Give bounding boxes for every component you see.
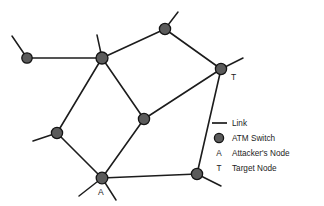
- link-n2-n3: [102, 29, 165, 58]
- node-label-A: A: [98, 187, 104, 197]
- legend-atm-switch-symbol: [214, 133, 223, 142]
- stubs-group: [12, 12, 243, 200]
- atm-switch-hub-node: [96, 52, 108, 64]
- node-label-T: T: [231, 72, 236, 82]
- atm-switch-left-node: [22, 53, 32, 63]
- legend-symbol-A: A: [216, 149, 222, 158]
- link-n5-n4: [144, 69, 221, 119]
- atm-switch-target-node: [215, 63, 226, 74]
- link-n2-n5: [102, 58, 144, 119]
- link-n2-n6: [57, 58, 102, 133]
- legend-label-1: ATM Switch: [232, 134, 276, 143]
- atm-switch-left-mid-node: [51, 127, 62, 138]
- atm-switch-attacker-node: [96, 172, 108, 184]
- atm-switch-center-node: [138, 113, 149, 124]
- legend: LinkATM SwitchAAttacker's NodeTTarget No…: [212, 119, 290, 173]
- legend-label-0: Link: [232, 119, 248, 128]
- link-n3-n4: [165, 29, 221, 69]
- links-group: [27, 29, 221, 178]
- link-n4-n8: [197, 69, 221, 174]
- legend-label-3: Target Node: [232, 164, 277, 173]
- legend-label-2: Attacker's Node: [232, 149, 290, 158]
- atm-switch-top-node: [159, 23, 170, 34]
- link-n7-n8: [102, 174, 197, 178]
- atm-switch-bottom-right-node: [191, 168, 202, 179]
- link-n5-n7: [102, 119, 144, 178]
- network-topology-canvas: TA LinkATM SwitchAAttacker's NodeTTarget…: [0, 0, 324, 206]
- network-diagram: TA LinkATM SwitchAAttacker's NodeTTarget…: [0, 0, 324, 206]
- link-n6-n7: [57, 133, 102, 178]
- legend-symbol-T: T: [216, 164, 221, 173]
